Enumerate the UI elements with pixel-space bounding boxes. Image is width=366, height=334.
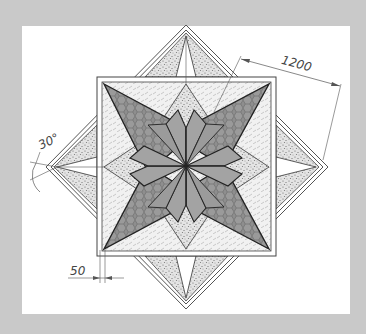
drawing-canvas: 1200 30° 50 [0,0,366,334]
star-pattern-drawing: 1200 30° 50 [0,0,366,334]
border-width-label: 50 [70,264,86,278]
